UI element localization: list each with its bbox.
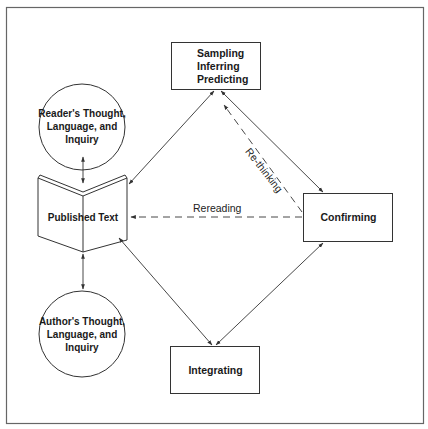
reader-line-3: Inquiry bbox=[37, 133, 127, 146]
sampling-line-1: Sampling bbox=[197, 47, 267, 60]
integrating-label: Integrating bbox=[171, 364, 260, 377]
sampling-line-2: Inferring bbox=[197, 60, 267, 73]
edge-sampling-published bbox=[129, 91, 214, 184]
sampling-line-3: Predicting bbox=[197, 73, 267, 86]
reader-line-1: Reader's Thought, bbox=[37, 107, 127, 120]
confirming-label: Confirming bbox=[304, 211, 393, 224]
rereading-label: Rereading bbox=[193, 202, 241, 214]
author-line-1: Author's Thought, bbox=[37, 315, 127, 328]
published-text-label: Published Text bbox=[40, 211, 126, 224]
author-line-3: Inquiry bbox=[37, 341, 127, 354]
edge-published-integrating bbox=[119, 238, 212, 345]
reader-label: Reader's Thought, Language, and Inquiry bbox=[37, 107, 127, 146]
author-label: Author's Thought, Language, and Inquiry bbox=[37, 315, 127, 354]
reader-line-2: Language, and bbox=[37, 120, 127, 133]
sampling-label: Sampling Inferring Predicting bbox=[197, 47, 267, 86]
edge-confirming-integrating bbox=[216, 243, 323, 345]
author-line-2: Language, and bbox=[37, 328, 127, 341]
